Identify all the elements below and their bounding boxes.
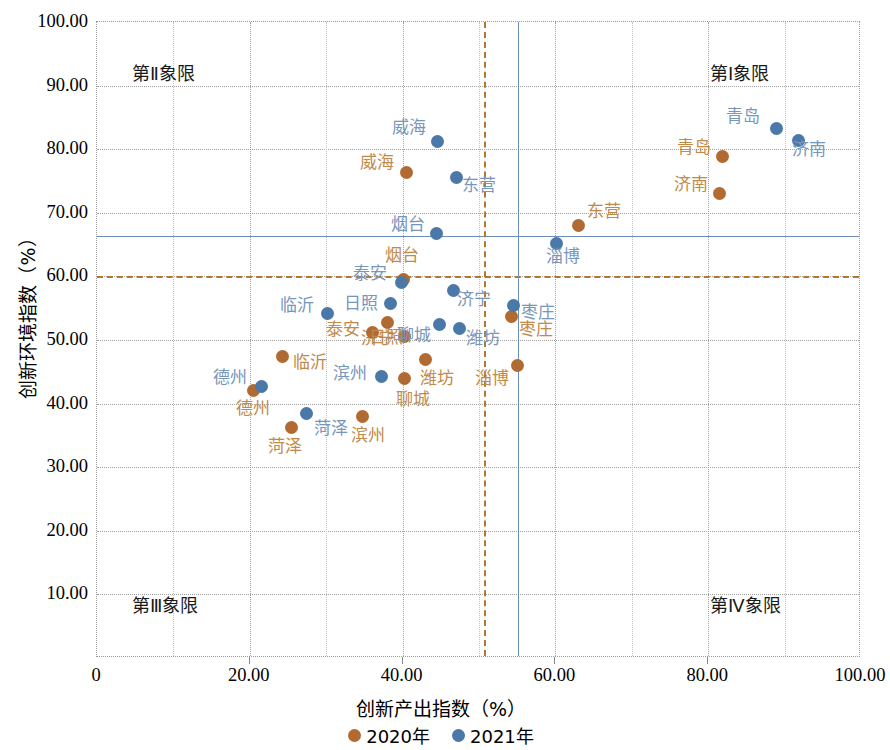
y-tick-label: 90.00	[2, 76, 88, 94]
gridline-horizontal	[97, 213, 859, 214]
quadrant-label-bottom-left: 第Ⅲ象限	[132, 591, 198, 617]
x-tick-label: 100.00	[800, 666, 890, 684]
data-point-label: 潍坊	[466, 330, 500, 347]
data-point-label: 日照	[344, 295, 378, 312]
data-point[interactable]	[433, 318, 446, 331]
x-tick-label: 60.00	[494, 666, 614, 684]
gridline-vertical-minor	[632, 22, 633, 656]
data-point-label: 菏泽	[314, 420, 348, 437]
data-point[interactable]	[716, 150, 729, 163]
data-point[interactable]	[713, 187, 726, 200]
quadrant-label-bottom-right: 第Ⅳ象限	[710, 591, 781, 617]
data-point[interactable]	[395, 276, 408, 289]
y-tick-label: 80.00	[2, 139, 88, 157]
gridline-horizontal	[97, 86, 859, 87]
data-point-label: 烟台	[385, 247, 419, 264]
data-point[interactable]	[321, 307, 334, 320]
data-point[interactable]	[430, 227, 443, 240]
data-point-label: 菏泽	[268, 438, 302, 455]
data-point[interactable]	[505, 310, 518, 323]
gridline-vertical-minor	[785, 22, 786, 656]
data-point-label: 淄博	[546, 248, 580, 265]
data-point-label: 威海	[360, 154, 394, 171]
y-tick-label: 50.00	[2, 330, 88, 348]
data-point[interactable]	[419, 353, 432, 366]
data-point-label: 济南	[674, 176, 708, 193]
gridline-horizontal	[97, 149, 859, 150]
data-point-label: 德州	[213, 369, 247, 386]
x-tick-label: 20.00	[189, 666, 309, 684]
x-tick-mark	[402, 657, 403, 664]
y-tick-label: 60.00	[2, 266, 88, 284]
x-axis-title: 创新产出指数（%）	[0, 694, 882, 721]
data-point-label: 烟台	[391, 216, 425, 233]
x-tick-label: 0	[36, 666, 156, 684]
quadrant-label-top-right: 第Ⅰ象限	[710, 59, 769, 85]
data-point-label: 潍坊	[420, 370, 454, 387]
data-point-label: 青岛	[677, 139, 711, 156]
legend-entry[interactable]: 2021年	[452, 722, 534, 748]
quadrant-label-top-left: 第Ⅱ象限	[132, 59, 195, 85]
gridline-vertical	[708, 22, 709, 656]
chart-legend: 2020年2021年	[0, 722, 882, 748]
data-point[interactable]	[511, 359, 524, 372]
gridline-vertical-minor	[173, 22, 174, 656]
data-point-label: 临沂	[293, 354, 327, 371]
data-point-label: 枣庄	[519, 321, 553, 338]
y-tick-label: 20.00	[2, 521, 88, 539]
data-point-label: 济南	[792, 141, 826, 158]
data-point[interactable]	[507, 299, 520, 312]
gridline-vertical	[555, 22, 556, 656]
data-point-label: 滨州	[333, 365, 367, 382]
data-point-label: 聊城	[397, 327, 431, 344]
data-point-label: 聊城	[396, 391, 430, 408]
reference-line-vertical-2021	[518, 22, 519, 656]
data-point[interactable]	[375, 370, 388, 383]
data-point[interactable]	[356, 410, 369, 423]
legend-label: 2021年	[470, 722, 534, 748]
data-point[interactable]	[285, 421, 298, 434]
data-point[interactable]	[398, 372, 411, 385]
legend-marker-icon	[348, 729, 361, 742]
data-point[interactable]	[276, 350, 289, 363]
data-point-label: 淄博	[475, 370, 509, 387]
x-tick-mark	[249, 657, 250, 664]
plot-area: 青岛济南威海东营烟台济宁泰安日照临沂潍坊聊城枣庄淄博德州滨州菏泽青岛济南威海东营…	[96, 21, 860, 657]
data-point-label: 东营	[462, 177, 496, 194]
gridline-vertical	[250, 22, 251, 656]
y-tick-label: 100.00	[2, 12, 88, 30]
reference-line-horizontal-2020	[97, 276, 859, 278]
data-point-label: 东营	[587, 203, 621, 220]
data-point-label: 济宁	[457, 291, 491, 308]
data-point-label: 泰安	[326, 321, 360, 338]
data-point-label: 青岛	[726, 108, 760, 125]
data-point[interactable]	[300, 407, 313, 420]
legend-label: 2020年	[366, 722, 430, 748]
y-tick-label: 30.00	[2, 457, 88, 475]
data-point[interactable]	[431, 135, 444, 148]
gridline-horizontal	[97, 531, 859, 532]
legend-entry[interactable]: 2020年	[348, 722, 430, 748]
data-point[interactable]	[400, 166, 413, 179]
x-tick-mark	[707, 657, 708, 664]
gridline-horizontal	[97, 467, 859, 468]
data-point[interactable]	[572, 219, 585, 232]
data-point[interactable]	[255, 380, 268, 393]
y-tick-label: 40.00	[2, 394, 88, 412]
y-tick-label: 70.00	[2, 203, 88, 221]
data-point[interactable]	[453, 322, 466, 335]
gridline-vertical-minor	[326, 22, 327, 656]
x-tick-mark	[554, 657, 555, 664]
data-point[interactable]	[384, 297, 397, 310]
data-point[interactable]	[770, 122, 783, 135]
data-point-label: 威海	[392, 119, 426, 136]
data-point-label: 枣庄	[521, 304, 555, 321]
legend-marker-icon	[452, 729, 465, 742]
data-point-label: 德州	[236, 400, 270, 417]
data-point-label: 滨州	[351, 427, 385, 444]
y-tick-label: 10.00	[2, 584, 88, 602]
x-tick-label: 40.00	[342, 666, 462, 684]
data-point-label: 泰安	[353, 265, 387, 282]
data-point[interactable]	[450, 171, 463, 184]
